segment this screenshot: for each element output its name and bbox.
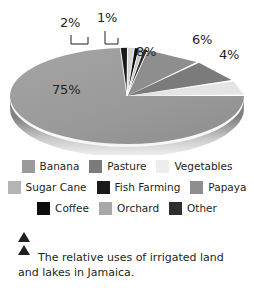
legend-swatch-icon (190, 181, 203, 194)
legend-swatch-icon (156, 160, 169, 173)
chart-legend: Banana Pasture Vegetables Sugar Cane Fis… (0, 156, 254, 222)
triangle-up-icon (18, 232, 30, 242)
legend-swatch-icon (37, 202, 50, 215)
legend-item-orchard: Orchard (99, 202, 159, 215)
pie-label-1: 1% (97, 11, 117, 24)
legend-item-vegetables: Vegetables (156, 160, 232, 173)
legend-item-papaya: Papaya (190, 181, 246, 194)
pie-label-2: 2% (60, 16, 80, 29)
figure-caption: The relative uses of irrigated land and … (0, 228, 254, 292)
caption-text-block: The relative uses of irrigated land and … (18, 250, 242, 280)
pie-label-8: 8% (136, 45, 156, 58)
pie-label-6: 6% (192, 33, 212, 46)
legend-item-fish-farming: Fish Farming (97, 181, 181, 194)
legend-label: Other (187, 203, 217, 214)
legend-label: Vegetables (174, 161, 232, 172)
legend-label: Banana (40, 161, 80, 172)
legend-item-other: Other (169, 202, 217, 215)
legend-row: Banana Pasture Vegetables (0, 156, 254, 177)
legend-label: Fish Farming (115, 182, 181, 193)
legend-swatch-icon (22, 160, 35, 173)
caption-line-2: and lakes in Jamaica. (18, 266, 134, 279)
legend-label: Orchard (117, 203, 159, 214)
legend-swatch-icon (89, 160, 102, 173)
legend-item-pasture: Pasture (89, 160, 146, 173)
pie-label-4: 4% (219, 48, 239, 61)
legend-label: Papaya (208, 182, 246, 193)
legend-label: Pasture (107, 161, 146, 172)
legend-swatch-icon (169, 202, 182, 215)
pie-chart-figure: 75% 8% 6% 4% 2% 1% (0, 0, 254, 155)
legend-item-sugar-cane: Sugar Cane (8, 181, 87, 194)
pie-chart-graphic (0, 0, 254, 155)
pie-leader-lines (71, 31, 118, 44)
legend-label: Sugar Cane (26, 182, 87, 193)
legend-row: Sugar Cane Fish Farming Papaya (0, 177, 254, 198)
legend-swatch-icon (97, 181, 110, 194)
legend-swatch-icon (99, 202, 112, 215)
caption-line-1: The relative uses of irrigated land (38, 251, 224, 264)
legend-row: Coffee Orchard Other (0, 198, 254, 219)
legend-item-banana: Banana (22, 160, 80, 173)
legend-label: Coffee (55, 203, 89, 214)
legend-item-coffee: Coffee (37, 202, 89, 215)
legend-swatch-icon (8, 181, 21, 194)
pie-label-75: 75% (52, 83, 80, 96)
